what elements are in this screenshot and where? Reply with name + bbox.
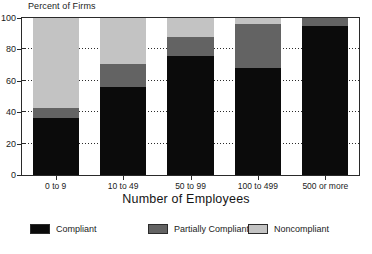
legend-label: Compliant: [56, 224, 97, 234]
bar-4: [235, 18, 281, 175]
bar-segment-partially-compliant: [33, 108, 79, 119]
bar-1: [33, 18, 79, 175]
bar-segment-compliant: [167, 56, 213, 175]
legend-swatch-icon: [148, 224, 168, 234]
legend-item-noncompliant: Noncompliant: [248, 222, 329, 236]
bar-2: [100, 18, 146, 175]
y-axis-tick-label: 40: [6, 107, 16, 117]
bar-segment-partially-compliant: [235, 24, 281, 68]
x-axis-tick-mark: [258, 176, 259, 180]
bar-5: [302, 18, 348, 175]
x-axis-tick-label: 500 or more: [302, 181, 348, 191]
legend-item-partially-compliant: Partially Compliant: [148, 222, 249, 236]
bar-segment-noncompliant: [100, 18, 146, 64]
legend-label: Partially Compliant: [174, 224, 249, 234]
y-axis-tick-inner: [22, 143, 26, 144]
x-axis-tick-mark: [56, 176, 57, 180]
x-axis-tick-label: 50 to 99: [175, 181, 206, 191]
bar-segment-partially-compliant: [167, 37, 213, 56]
legend-label: Noncompliant: [274, 224, 329, 234]
bar-segment-compliant: [235, 68, 281, 175]
legend-swatch-icon: [30, 224, 50, 234]
plot-area: [21, 17, 360, 176]
bar-segment-partially-compliant: [100, 64, 146, 88]
y-axis-tick-label: 80: [6, 44, 16, 54]
bar-segment-noncompliant: [33, 18, 79, 107]
x-axis-tick-label: 100 to 499: [238, 181, 278, 191]
chart-legend: CompliantPartially CompliantNoncompliant: [0, 222, 372, 238]
legend-item-compliant: Compliant: [30, 222, 97, 236]
y-axis-tick-label: 100: [1, 13, 16, 23]
x-axis-tick-mark: [191, 176, 192, 180]
y-axis-tick-inner: [22, 80, 26, 81]
y-axis-tick-label: 60: [6, 76, 16, 86]
y-axis: 020406080100: [0, 17, 21, 176]
bar-segment-partially-compliant: [302, 18, 348, 26]
bars-layer: [22, 18, 359, 175]
y-axis-tick-inner: [22, 111, 26, 112]
bar-3: [167, 18, 213, 175]
legend-swatch-icon: [248, 224, 268, 234]
x-axis-tick-label: 0 to 9: [45, 181, 66, 191]
stacked-bar-chart: Percent of Firms 020406080100 0 to 910 t…: [0, 0, 372, 254]
x-axis-tick-mark: [123, 176, 124, 180]
bar-segment-noncompliant: [235, 18, 281, 24]
bar-segment-compliant: [100, 87, 146, 175]
bar-segment-compliant: [33, 118, 79, 175]
y-axis-tick-label: 0: [11, 170, 16, 180]
x-axis-tick-mark: [325, 176, 326, 180]
y-axis-tick-inner: [22, 48, 26, 49]
x-axis-tick-label: 10 to 49: [108, 181, 139, 191]
bar-segment-compliant: [302, 26, 348, 175]
bar-segment-noncompliant: [167, 18, 213, 37]
y-axis-tick-label: 20: [6, 139, 16, 149]
x-axis-title: Number of Employees: [0, 192, 372, 206]
y-axis-caption: Percent of Firms: [28, 1, 96, 11]
